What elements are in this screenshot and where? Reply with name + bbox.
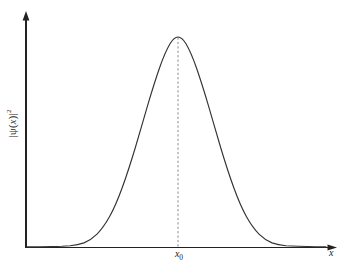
y-axis-arrowhead-icon xyxy=(23,11,30,21)
x0-tick-label: x0 xyxy=(169,249,189,259)
y-axis-label-text: |ψ(x)|2 xyxy=(8,109,19,137)
y-axis-label-variable: x xyxy=(7,119,18,124)
plot-canvas xyxy=(0,0,345,266)
x-axis-label: x xyxy=(329,248,333,258)
y-axis-label-psi: ψ xyxy=(7,128,18,135)
y-axis-label: |ψ(x)|2 xyxy=(0,88,26,158)
x0-tick-subscript: 0 xyxy=(179,253,183,262)
y-axis-label-paren-open: ( xyxy=(7,124,18,128)
y-axis-label-exponent: 2 xyxy=(5,109,13,113)
gaussian-curve xyxy=(27,37,326,247)
probability-density-figure: |ψ(x)|2 x x0 xyxy=(0,0,345,266)
y-axis-label-paren-close: ) xyxy=(7,115,18,119)
x-axis-label-text: x xyxy=(329,247,333,258)
